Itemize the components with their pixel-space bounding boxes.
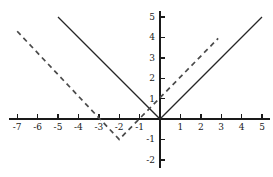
plot-canvas: -7-6-5-4-3-2-112345 -2-112345 <box>0 0 273 177</box>
y-tick-label: 1 <box>140 94 155 103</box>
x-tick-label: 2 <box>198 123 204 132</box>
x-tick-label: -1 <box>135 123 144 132</box>
x-tick-label: -2 <box>115 123 124 132</box>
x-tick-label: 4 <box>239 123 245 132</box>
y-tick-label: 4 <box>140 33 155 42</box>
y-tick-label: 2 <box>140 74 155 83</box>
x-tick-label: -3 <box>94 123 103 132</box>
plot-svg <box>0 0 273 177</box>
x-tick-label: -4 <box>74 123 83 132</box>
x-tick-label: 1 <box>178 123 184 132</box>
y-tick-label: -2 <box>140 155 155 164</box>
y-tick-label: 3 <box>140 53 155 62</box>
x-tick-label: 3 <box>218 123 224 132</box>
y-tick-label: -1 <box>140 135 155 144</box>
y-tick-label: 5 <box>140 13 155 22</box>
x-tick-label: -7 <box>13 123 22 132</box>
x-tick-label: -5 <box>54 123 63 132</box>
x-tick-label: 5 <box>259 123 265 132</box>
x-tick-label: -6 <box>33 123 42 132</box>
